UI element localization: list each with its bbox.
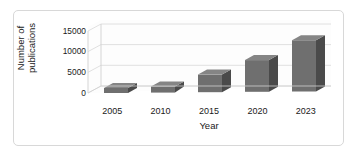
x-tick-2010: 2010 xyxy=(136,106,184,120)
x-tick-2005: 2005 xyxy=(88,106,136,120)
x-tick-2015: 2015 xyxy=(185,106,233,120)
x-axis-title: Year xyxy=(88,120,330,131)
y-tick-0: 0 xyxy=(52,89,86,98)
x-axis-tick-labels: 2005 2010 2015 2020 2023 xyxy=(88,106,330,120)
y-tick-10000: 10000 xyxy=(52,47,86,56)
y-tick-5000: 5000 xyxy=(52,68,86,77)
x-tick-2023: 2023 xyxy=(282,106,330,120)
y-axis-title: Number of publications xyxy=(16,5,56,91)
chart-figure: Number of publications 15000 10000 5000 … xyxy=(0,0,358,162)
x-tick-2020: 2020 xyxy=(233,106,281,120)
y-tick-15000: 15000 xyxy=(52,27,86,36)
y-axis-tick-labels: 15000 10000 5000 0 xyxy=(52,0,86,162)
